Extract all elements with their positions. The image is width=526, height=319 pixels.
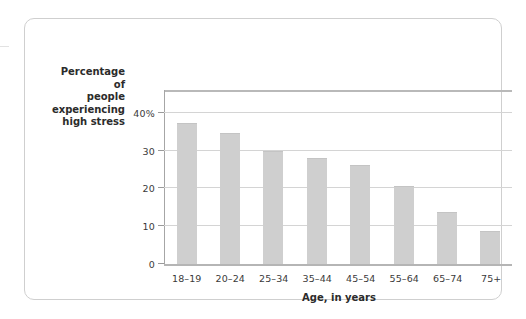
- bar-25-34: [263, 151, 283, 264]
- bar-45-54: [350, 165, 370, 264]
- bar-slot: [382, 90, 425, 264]
- x-tick-label: 20–24: [209, 273, 253, 284]
- bar-slot: [295, 90, 338, 264]
- x-tick-label: 35–44: [296, 273, 340, 284]
- bar-slot: [425, 90, 468, 264]
- x-axis-tick-labels: 18–1920–2425–3435–4445–5455–6465–7475+: [165, 273, 513, 284]
- x-tick-label: 45–54: [339, 273, 383, 284]
- y-axis-title: Percentage of people experiencing high s…: [49, 66, 125, 129]
- x-tick-label: 55–64: [383, 273, 427, 284]
- x-axis-line: [164, 264, 512, 266]
- bar-55-64: [394, 186, 414, 264]
- plot-area: [164, 90, 512, 266]
- bar-18-19: [177, 123, 197, 264]
- x-tick-label: 25–34: [252, 273, 296, 284]
- y-tick-label-10: 10: [143, 221, 156, 232]
- x-tick-label: 18–19: [165, 273, 209, 284]
- x-tick-label: 75+: [470, 273, 514, 284]
- chart-screenshot: Percentage of people experiencing high s…: [0, 0, 526, 319]
- y-axis-title-line-1: Percentage of: [49, 66, 125, 91]
- y-tick-label-0: 0: [149, 259, 155, 270]
- y-tick-label-40: 40%: [133, 108, 155, 119]
- bar-20-24: [220, 133, 240, 264]
- y-axis-title-line-2: people: [49, 91, 125, 104]
- bar-35-44: [307, 158, 327, 264]
- x-axis-title: Age, in years: [165, 292, 513, 303]
- x-tick-label: 65–74: [426, 273, 470, 284]
- y-axis-title-line-4: high stress: [49, 116, 125, 129]
- bar-series: [165, 90, 512, 264]
- bar-slot: [252, 90, 295, 264]
- bar-65-74: [437, 212, 457, 264]
- y-tick-label-30: 30: [143, 146, 156, 157]
- page-edge-mark: [0, 46, 9, 47]
- bar-slot: [208, 90, 251, 264]
- y-axis-ticks: 010203040%: [125, 90, 164, 266]
- y-axis-title-line-3: experiencing: [49, 104, 125, 117]
- bar-slot: [339, 90, 382, 264]
- bar-slot: [469, 90, 512, 264]
- bar-75+: [480, 231, 500, 264]
- bar-slot: [165, 90, 208, 264]
- y-tick-label-20: 20: [143, 183, 156, 194]
- chart-card: Percentage of people experiencing high s…: [24, 18, 502, 300]
